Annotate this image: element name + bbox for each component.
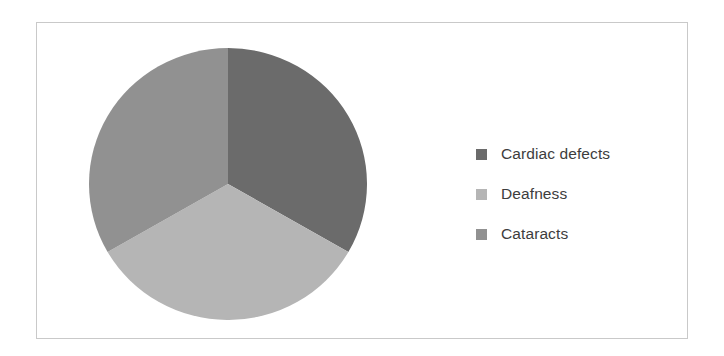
chart-legend: Cardiac defects Deafness Cataracts [476, 134, 681, 254]
chart-frame: Cardiac defects Deafness Cataracts [36, 22, 688, 339]
square-swatch-icon [476, 149, 487, 160]
square-swatch-icon [476, 229, 487, 240]
legend-item-label: Deafness [501, 186, 567, 202]
pie-svg [89, 48, 367, 320]
pie-chart-plot-area [89, 48, 367, 320]
legend-item-cataracts[interactable]: Cataracts [476, 214, 681, 254]
legend-item-label: Cardiac defects [501, 146, 610, 162]
pie-chart-figure: Cardiac defects Deafness Cataracts [0, 0, 724, 356]
legend-item-deafness[interactable]: Deafness [476, 174, 681, 214]
square-swatch-icon [476, 189, 487, 200]
legend-item-cardiac-defects[interactable]: Cardiac defects [476, 134, 681, 174]
legend-item-label: Cataracts [501, 226, 568, 242]
pie-slice-group [89, 48, 367, 320]
